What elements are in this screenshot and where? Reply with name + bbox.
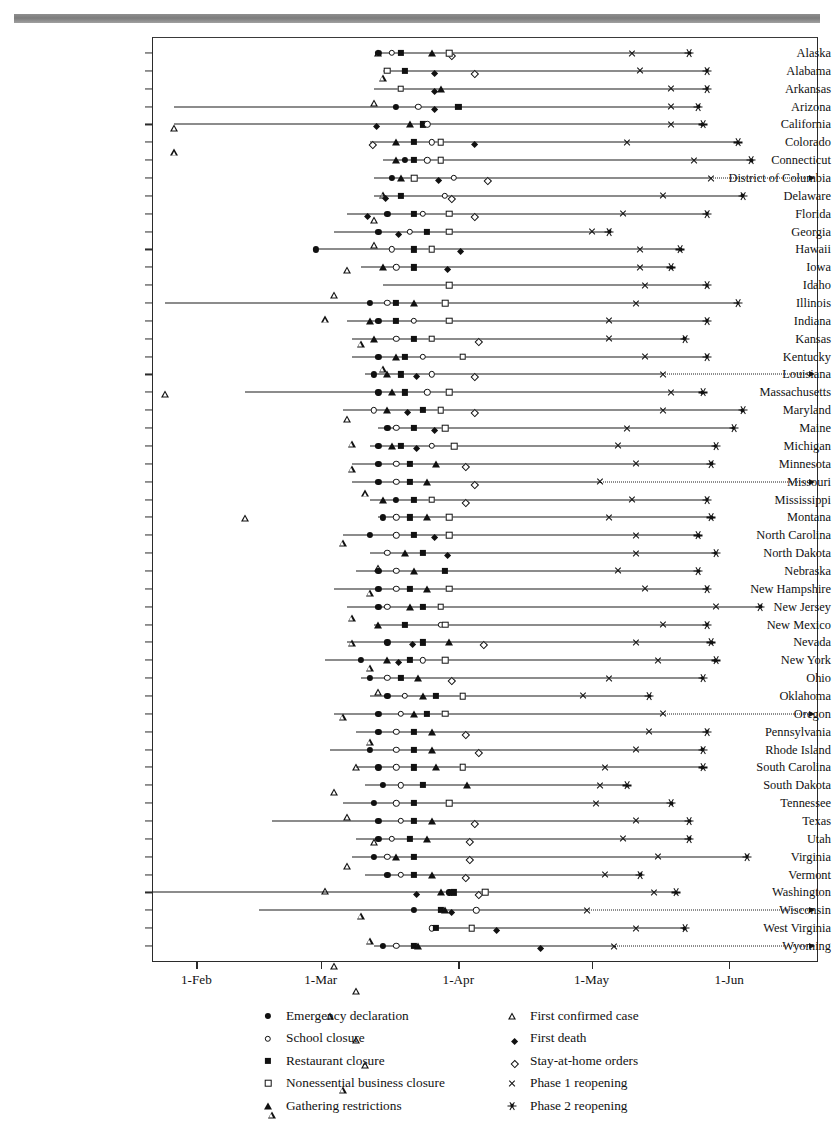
marker-firstcase (343, 415, 351, 422)
marker-restaurant (398, 50, 404, 56)
marker-gathering (410, 300, 418, 307)
marker-firstcase (361, 490, 369, 497)
marker-phase1 (605, 674, 613, 682)
marker-phase1 (628, 496, 636, 504)
x-axis-tick-label: 1-Jun (715, 972, 744, 988)
marker-restaurant (455, 103, 461, 109)
marker-firstcase (508, 1013, 516, 1020)
x-axis-tick (196, 962, 197, 969)
y-axis-state-label: Maine (687, 422, 835, 434)
marker-phase1 (623, 424, 631, 432)
marker-gathering (437, 85, 445, 92)
marker-restaurant (411, 729, 417, 735)
y-axis-tick (145, 535, 153, 536)
y-axis-tick (145, 106, 153, 107)
y-axis-state-label: Pennsylvania (687, 725, 835, 737)
y-axis-state-label: Oklahoma (687, 690, 835, 702)
marker-firstcase (343, 863, 351, 870)
marker-restaurant (411, 800, 417, 806)
marker-firstcase (370, 241, 378, 248)
marker-nonessential (265, 1080, 272, 1087)
marker-phase2 (645, 691, 654, 700)
state-timeline-line (374, 624, 707, 625)
y-axis-state-label: Alaska (687, 47, 835, 59)
marker-restaurant (411, 246, 417, 252)
marker-firstcase (357, 913, 365, 920)
marker-nonessential (460, 693, 467, 700)
marker-nonessential (446, 514, 453, 521)
y-axis-state-label: Indiana (687, 315, 835, 327)
marker-gathering (423, 585, 431, 592)
marker-phase1 (610, 942, 618, 950)
y-axis-tick (145, 160, 153, 161)
marker-restaurant (406, 514, 412, 520)
y-axis-tick (145, 320, 153, 321)
marker-restaurant (451, 889, 457, 895)
y-axis-state-label: Alabama (687, 65, 835, 77)
marker-gathering (379, 264, 387, 271)
marker-nonessential (446, 210, 453, 217)
chart-legend: Emergency declarationSchool closureResta… (0, 1005, 835, 1125)
state-timeline-line (370, 499, 707, 500)
y-axis-state-label: Wisconsin (687, 904, 835, 916)
y-axis-tick (145, 499, 153, 500)
y-axis-state-label: Texas (687, 815, 835, 827)
marker-phase1 (605, 513, 613, 521)
y-axis-state-label: Kansas (687, 333, 835, 345)
state-timeline-line (383, 285, 707, 286)
marker-nonessential (437, 139, 444, 146)
marker-nonessential (482, 889, 489, 896)
y-axis-state-label: New Mexico (687, 618, 835, 630)
y-axis-state-label: Utah (687, 833, 835, 845)
y-axis-state-label: Tennessee (687, 797, 835, 809)
marker-nonessential (446, 228, 453, 235)
y-axis-tick (145, 553, 153, 554)
marker-restaurant (402, 354, 408, 360)
state-timeline-line (245, 392, 702, 393)
marker-phase1 (654, 853, 662, 861)
y-axis-state-label: Illinois (687, 297, 835, 309)
marker-restaurant (411, 336, 417, 342)
state-timeline-line (316, 249, 680, 250)
marker-gathering (392, 353, 400, 360)
legend-label: School closure (286, 1027, 365, 1049)
marker-phase1 (667, 120, 675, 128)
state-timeline-line (174, 124, 702, 125)
legend-label: Nonessential business closure (286, 1072, 445, 1094)
marker-phase1 (632, 299, 640, 307)
state-timeline-line (343, 410, 743, 411)
y-axis-tick (145, 124, 153, 125)
y-axis-tick (145, 606, 153, 607)
marker-gathering (410, 710, 418, 717)
marker-gathering (374, 621, 382, 628)
marker-firstcase (348, 465, 356, 472)
y-axis-tick (145, 213, 153, 214)
marker-phase1 (579, 692, 587, 700)
marker-gathering (410, 567, 418, 574)
y-axis-tick (145, 820, 153, 821)
legend-label: Phase 1 reopening (530, 1072, 628, 1094)
marker-gathering (406, 121, 414, 128)
marker-phase1 (659, 406, 667, 414)
marker-phase2 (623, 781, 632, 790)
marker-phase1 (592, 799, 600, 807)
y-axis-state-label: Iowa (687, 261, 835, 273)
marker-phase1 (614, 442, 622, 450)
marker-restaurant (411, 264, 417, 270)
y-axis-tick (145, 713, 153, 714)
y-axis-state-label: New Hampshire (687, 583, 835, 595)
marker-nonessential (397, 85, 404, 92)
y-axis-state-label: Mississippi (687, 493, 835, 505)
state-timeline-line (365, 374, 662, 375)
marker-restaurant (406, 479, 412, 485)
marker-gathering (445, 639, 453, 646)
legend-label: First death (530, 1027, 587, 1049)
marker-restaurant (411, 157, 417, 163)
marker-restaurant (420, 604, 426, 610)
marker-nonessential (446, 586, 453, 593)
marker-gathering (423, 478, 431, 485)
y-axis-tick (145, 481, 153, 482)
marker-phase1 (659, 370, 667, 378)
y-axis-state-label: New Jersey (687, 600, 835, 612)
state-timeline-line (352, 338, 685, 339)
